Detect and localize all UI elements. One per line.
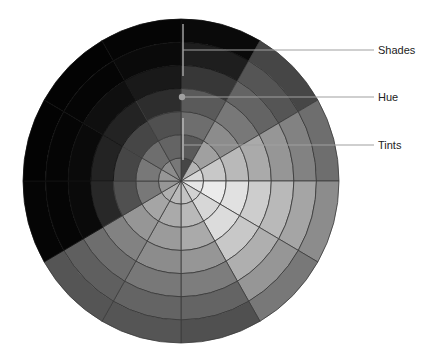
- tints-label: Tints: [378, 139, 401, 151]
- shades-label: Shades: [378, 44, 415, 56]
- color-wheel: [0, 0, 431, 359]
- wheel-cells: [23, 19, 339, 343]
- hue-label: Hue: [378, 91, 398, 103]
